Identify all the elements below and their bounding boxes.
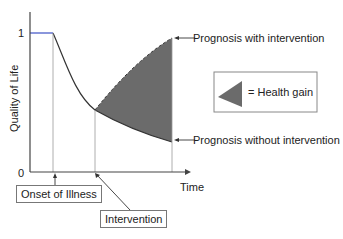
health-gain-area (95, 38, 172, 142)
without-intervention-label: Prognosis without intervention (193, 135, 340, 146)
y-tick-0: 0 (18, 168, 24, 179)
onset-of-illness-box: Onset of Illness (16, 185, 102, 203)
legend-label: = Health gain (248, 87, 313, 98)
intervention-box: Intervention (100, 210, 167, 228)
with-intervention-label: Prognosis with intervention (193, 33, 324, 44)
y-tick-1: 1 (18, 28, 24, 39)
arrow-icon (53, 173, 57, 178)
y-axis-label: Quality of Life (8, 65, 20, 132)
arrow-icon (174, 36, 179, 40)
arrow-icon (174, 138, 179, 142)
x-axis-arrow-icon (185, 169, 191, 175)
x-axis-label: Time (180, 182, 204, 193)
